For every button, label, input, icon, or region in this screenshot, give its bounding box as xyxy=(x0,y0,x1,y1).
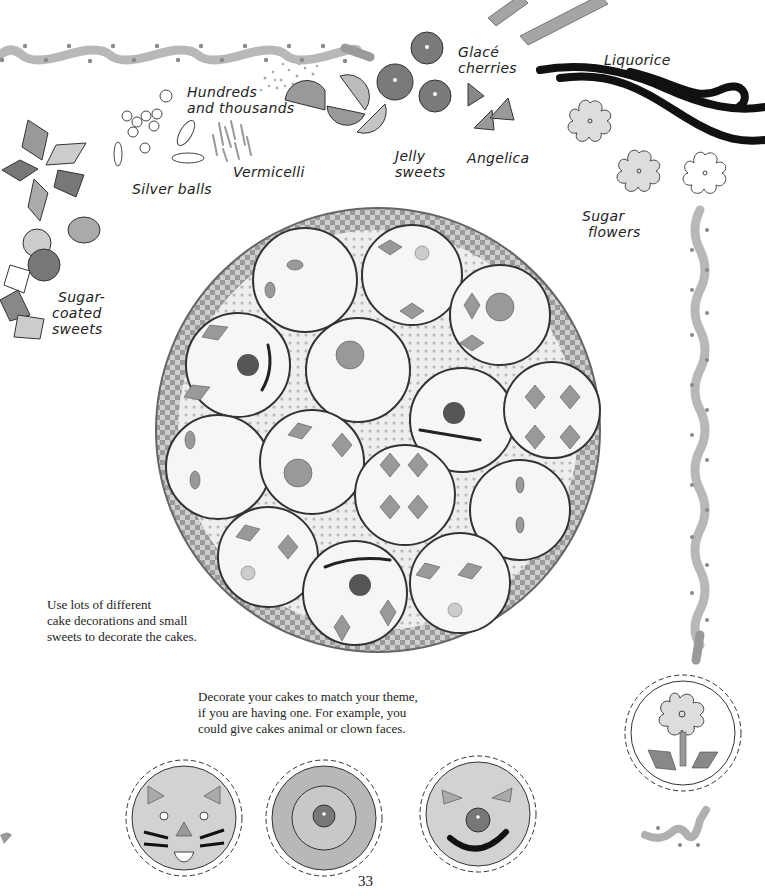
caption-line: cake decorations and small xyxy=(47,613,197,629)
label-vermicelli: Vermicelli xyxy=(233,164,305,180)
caption-decorate-theme: Decorate your cakes to match your theme,… xyxy=(198,689,418,737)
right-wave-border xyxy=(680,205,720,665)
candy-sticks xyxy=(480,0,640,50)
clown-face-cake-illustration xyxy=(414,750,544,880)
caption-line: Use lots of different xyxy=(47,597,197,613)
label-line: sweets xyxy=(52,321,105,337)
target-cake-illustration xyxy=(262,752,392,882)
label-hundreds-and-thousands: Hundreds and thousands xyxy=(187,84,294,116)
label-sugar-coated-sweets: Sugar- coated sweets xyxy=(58,289,105,337)
label-line: Glacé xyxy=(458,44,517,60)
label-glace-cherries: Glacé cherries xyxy=(458,44,517,76)
label-line: Sugar- xyxy=(58,289,105,305)
label-line: coated xyxy=(52,305,105,321)
label-line: cherries xyxy=(458,60,517,76)
edge-fragment xyxy=(0,830,20,850)
glace-cherries xyxy=(370,30,460,120)
cat-face-cake-illustration xyxy=(120,752,250,882)
angelica xyxy=(464,80,524,140)
label-line: sweets xyxy=(395,164,446,180)
caption-use-decorations: Use lots of different cake decorations a… xyxy=(47,597,197,645)
sugar-flowers xyxy=(555,95,735,205)
label-jelly-sweets: Jelly sweets xyxy=(395,148,446,180)
basket-of-decorated-cakes-photo xyxy=(150,195,610,655)
caption-line: sweets to decorate the cakes. xyxy=(47,629,197,645)
page-number: 33 xyxy=(358,873,373,890)
label-line: Jelly xyxy=(395,148,446,164)
caption-line: could give cakes animal or clown faces. xyxy=(198,721,418,737)
silver-balls xyxy=(110,88,200,168)
flower-cake-illustration xyxy=(620,670,750,800)
squiggle-decoration xyxy=(640,800,720,850)
caption-line: Decorate your cakes to match your theme, xyxy=(198,689,418,705)
vermicelli xyxy=(205,115,255,165)
label-line: and thousands xyxy=(187,100,294,116)
caption-line: if you are having one. For example, you xyxy=(198,705,418,721)
label-angelica: Angelica xyxy=(467,150,529,166)
label-line: Hundreds xyxy=(187,84,294,100)
